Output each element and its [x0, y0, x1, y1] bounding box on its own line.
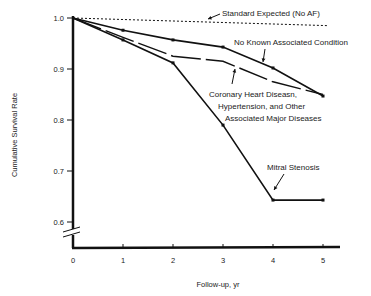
- data-point: [272, 66, 275, 69]
- x-axis: [72, 247, 340, 248]
- annotation-chd-line2: Hypertension, and Other: [218, 102, 305, 111]
- data-point: [172, 61, 175, 64]
- x-tick-label: 3: [221, 256, 225, 265]
- data-point: [272, 199, 275, 202]
- annotation-no-known: No Known Associated Condition: [234, 38, 348, 47]
- y-tick-label: 0.8: [54, 116, 64, 125]
- chart-canvas: 1.00.90.80.70.6012345Follow-up, yrCumula…: [0, 0, 371, 296]
- survival-chart: 1.00.90.80.70.6012345Follow-up, yrCumula…: [0, 0, 371, 296]
- x-tick-label: 5: [321, 256, 325, 265]
- series-line: [73, 18, 328, 26]
- x-tick-label: 4: [271, 256, 275, 265]
- data-point: [222, 46, 225, 49]
- data-point: [222, 124, 225, 127]
- y-tick-label: 0.7: [54, 167, 64, 176]
- x-axis-title: Follow-up, yr: [197, 280, 240, 289]
- x-tick-label: 0: [71, 256, 75, 265]
- annotation-chd-line3: Associated Major Diseases: [225, 114, 321, 123]
- y-tick-label: 0.6: [54, 218, 64, 227]
- axes: 1.00.90.80.70.6012345Follow-up, yrCumula…: [10, 14, 340, 290]
- data-point: [122, 38, 125, 41]
- annotation-standard: Standard Expected (No AF): [222, 9, 320, 18]
- y-tick-label: 1.0: [54, 14, 64, 23]
- x-tick-label: 2: [171, 256, 175, 265]
- data-point: [122, 29, 125, 32]
- data-point: [322, 199, 325, 202]
- data-point: [172, 38, 175, 41]
- arrow-icon: [232, 69, 236, 73]
- annotations: Standard Expected (No AF)No Known Associ…: [208, 9, 348, 190]
- series-line: [73, 18, 323, 95]
- annotation-chd-line1: Coronary Heart Diseasn,: [209, 90, 297, 99]
- data-point: [322, 95, 325, 98]
- y-tick-label: 0.9: [54, 65, 64, 74]
- x-tick-label: 1: [121, 256, 125, 265]
- annotation-mitral: Mitral Stenosis: [267, 163, 319, 172]
- y-axis-title: Cumulative Survival Rate: [10, 93, 19, 177]
